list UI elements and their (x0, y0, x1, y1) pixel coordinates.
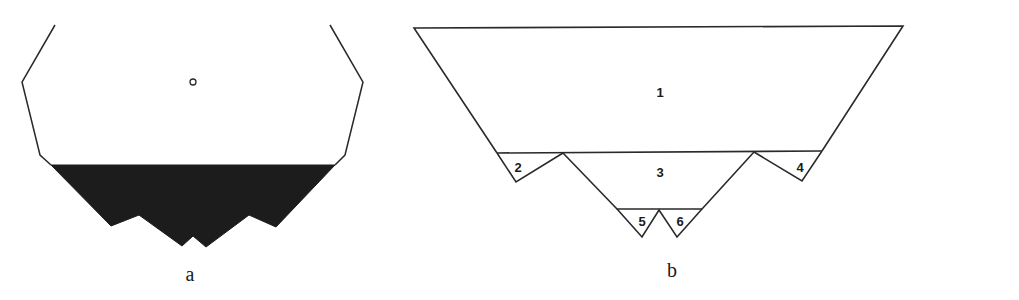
figure-a-outline-left (22, 25, 55, 165)
figure-a-center-marker (190, 79, 196, 85)
diagram-canvas: a 1 2 3 4 5 6 b (0, 0, 1019, 300)
region-2-label: 2 (514, 160, 521, 175)
region-3-label: 3 (656, 165, 663, 180)
region-4-outline (754, 151, 822, 181)
region-5-label: 5 (638, 214, 645, 229)
figure-a-caption: a (186, 263, 195, 285)
region-5-6-outline (617, 209, 702, 237)
region-1-label: 1 (656, 85, 663, 100)
region-6-label: 6 (676, 214, 683, 229)
figure-a-outline-right (330, 25, 363, 165)
figure-b-caption: b (667, 259, 677, 281)
region-2-outline (497, 153, 563, 182)
figure-b (414, 26, 903, 237)
region-4-label: 4 (796, 160, 804, 175)
figure-a-filled-region (51, 165, 335, 247)
region-1-bottom-line (497, 151, 822, 153)
figure-a: a (22, 25, 363, 285)
figure-b-labels: 1 2 3 4 5 6 b (514, 85, 804, 281)
region-3-outline (563, 152, 754, 209)
